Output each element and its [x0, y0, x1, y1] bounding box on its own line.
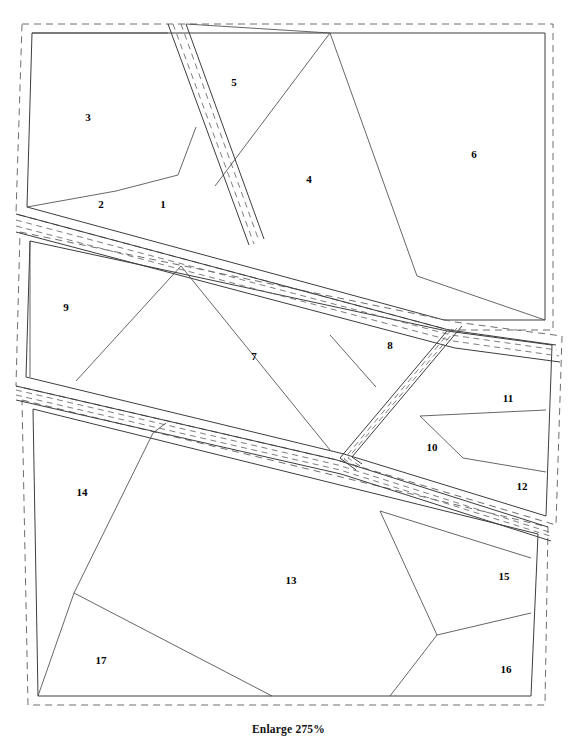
parcel-label-2[interactable]: 2: [98, 198, 104, 210]
parcel-label-1[interactable]: 1: [160, 198, 166, 210]
parcel-label-5[interactable]: 5: [231, 76, 237, 88]
parcel-label-7[interactable]: 7: [251, 350, 257, 362]
parcel-label-13[interactable]: 13: [286, 574, 298, 586]
parcel-label-9[interactable]: 9: [63, 301, 69, 313]
figure-caption: Enlarge 275%: [0, 714, 577, 744]
blocks-layer: [16, 24, 562, 705]
parcel-label-15[interactable]: 15: [499, 570, 511, 582]
parcel-label-17[interactable]: 17: [96, 654, 108, 666]
parcel-map-figure: 1234567891011121314151617 Enlarge 275%: [0, 0, 577, 744]
parcel-map[interactable]: 1234567891011121314151617: [0, 0, 577, 714]
parcel-label-8[interactable]: 8: [387, 339, 393, 351]
parcel-label-4[interactable]: 4: [306, 173, 312, 185]
parcel-label-6[interactable]: 6: [471, 148, 477, 160]
parcel-label-10[interactable]: 10: [427, 441, 439, 453]
parcel-label-3[interactable]: 3: [85, 111, 91, 123]
parcel-label-16[interactable]: 16: [501, 663, 513, 675]
parcel-label-11[interactable]: 11: [503, 392, 513, 404]
parcel-label-14[interactable]: 14: [77, 486, 89, 498]
caption-text: Enlarge 275%: [252, 723, 325, 735]
parcel-label-12[interactable]: 12: [517, 480, 529, 492]
